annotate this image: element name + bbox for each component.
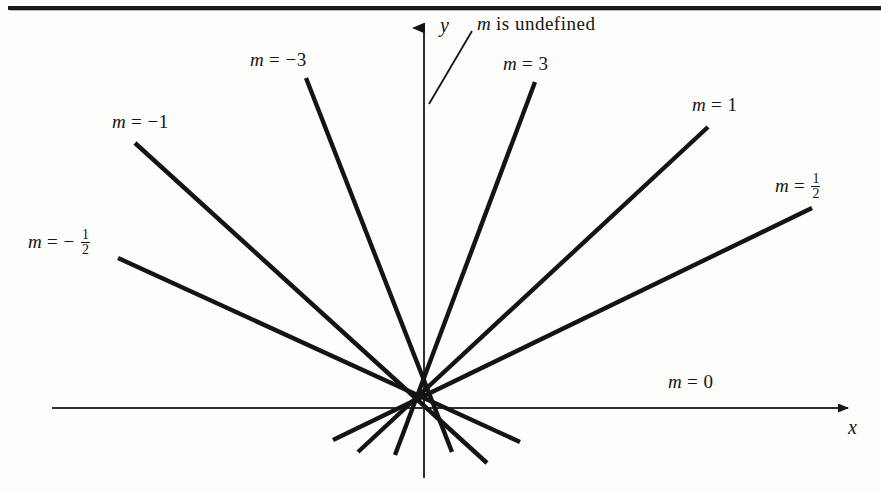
label-m-equals-minus-3: m = −3 <box>250 50 307 69</box>
fraction-one-half-denominator: 2 <box>811 187 820 201</box>
label-m-equals-0: m = 0 <box>668 372 713 391</box>
fraction-one-half-numerator: 1 <box>811 172 820 187</box>
x-axis-label: x <box>848 416 857 439</box>
label-m-equals-minus-3-value: = −3 <box>264 49 307 70</box>
fraction-negative-one-half-denominator: 2 <box>81 243 90 257</box>
label-m-equals-minus-3-variable: m <box>250 49 264 70</box>
label-m-equals-minus-1-value: = −1 <box>126 111 169 132</box>
y-axis-label: y <box>440 14 449 37</box>
slope-lines <box>118 78 812 463</box>
label-m-equals-0-value: = 0 <box>682 371 714 392</box>
label-m-equals-3: m = 3 <box>503 54 548 73</box>
fraction-negative-one-half: 12 <box>81 228 90 258</box>
label-m-undefined-text: is undefined <box>491 13 596 34</box>
fraction-negative-one-half-numerator: 1 <box>81 228 90 243</box>
label-m-equals-minus-one-half: m = − 12 <box>28 229 90 259</box>
coordinate-plane <box>0 0 881 491</box>
label-m-undefined: m is undefined <box>477 14 595 33</box>
undefined-leader-line <box>429 31 472 104</box>
label-m-equals-minus-1: m = −1 <box>112 112 169 131</box>
label-m-equals-one-half-equals: = <box>789 175 811 196</box>
label-m-equals-1: m = 1 <box>692 95 737 114</box>
label-m-undefined-variable: m <box>477 13 491 34</box>
label-m-equals-3-variable: m <box>503 53 517 74</box>
line-slope-minus-1 <box>135 143 487 463</box>
fraction-one-half: 12 <box>811 172 820 202</box>
label-m-equals-0-variable: m <box>668 371 682 392</box>
label-m-equals-minus-one-half-variable: m <box>28 231 42 252</box>
label-m-equals-1-variable: m <box>692 94 706 115</box>
label-m-equals-1-value: = 1 <box>706 94 738 115</box>
line-slope-minus-3 <box>306 78 452 452</box>
label-m-equals-minus-1-variable: m <box>112 111 126 132</box>
label-m-equals-minus-one-half-equals: = − <box>42 231 80 252</box>
line-slope-one-half <box>333 208 812 440</box>
label-m-equals-one-half: m = 12 <box>775 173 820 203</box>
label-m-equals-one-half-variable: m <box>775 175 789 196</box>
label-m-equals-3-value: = 3 <box>517 53 549 74</box>
slope-figure: m is undefined m = −3 m = 3 m = −1 m = 1… <box>0 0 881 491</box>
